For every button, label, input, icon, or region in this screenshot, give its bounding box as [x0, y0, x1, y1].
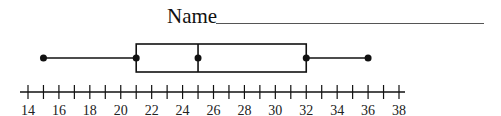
tick-label: 14 [21, 103, 35, 116]
median-point [195, 55, 202, 62]
max-point [365, 55, 372, 62]
tick-label: 28 [237, 103, 251, 116]
tick-label: 26 [207, 103, 221, 116]
iqr-box [136, 44, 306, 72]
tick-label: 30 [268, 103, 282, 116]
number-line-axis: 14161820222426283032343638 [20, 85, 406, 116]
tick-label: 20 [114, 103, 128, 116]
tick-label: 32 [299, 103, 313, 116]
tick-label: 16 [52, 103, 66, 116]
min-point [40, 55, 47, 62]
q3-point [303, 55, 310, 62]
tick-label: 18 [83, 103, 97, 116]
q1-point [133, 55, 140, 62]
tick-label: 38 [392, 103, 406, 116]
tick-label: 34 [330, 103, 344, 116]
box-plot: 14161820222426283032343638 [0, 0, 501, 116]
tick-label: 36 [361, 103, 375, 116]
box-and-whisker [40, 44, 372, 72]
tick-label: 22 [145, 103, 159, 116]
tick-label: 24 [176, 103, 190, 116]
